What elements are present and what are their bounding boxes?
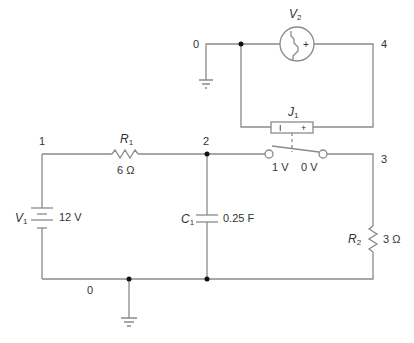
node-label-4: 4 [381, 39, 387, 50]
wire-v2-to-node4 [313, 44, 373, 127]
j1-minus-sign: I [279, 123, 282, 133]
c1-name: C1 [181, 213, 194, 227]
switch-off-label: 0 V [301, 162, 318, 173]
node-label-0-bottom: 0 [87, 285, 93, 296]
r1-resistor [112, 150, 138, 158]
junction-bottom-c1 [205, 277, 210, 282]
v2-name: V2 [289, 8, 301, 22]
r1-name: R1 [120, 133, 133, 147]
node-label-1: 1 [39, 136, 45, 147]
junction-node2 [205, 152, 210, 157]
node-label-3: 3 [381, 154, 387, 165]
r2-name: R2 [348, 233, 361, 247]
circuit-canvas: + I + [0, 0, 414, 343]
switch-terminal-left [265, 150, 273, 158]
switch-terminal-right [319, 150, 327, 158]
wire-top-node0 [206, 44, 280, 80]
v2-source-circle [280, 27, 314, 61]
v1-name: V1 [15, 212, 27, 226]
ground-top-icon [199, 80, 213, 88]
junction-top [239, 42, 244, 47]
node-label-0-top: 0 [193, 39, 199, 50]
wire-switch-to-node3 [327, 154, 373, 226]
switch-on-label: 1 V [272, 162, 289, 173]
j1-name: J1 [288, 106, 298, 120]
r2-value: 3 Ω [383, 234, 400, 245]
junction-bottom-ground [127, 277, 132, 282]
r2-resistor [369, 226, 377, 252]
j1-control-box [271, 122, 313, 133]
r1-value: 6 Ω [117, 165, 134, 176]
node-label-2: 2 [203, 136, 209, 147]
c1-value: 0.25 F [223, 213, 254, 224]
wire-junction-down-to-j1 [241, 44, 271, 127]
j1-plus-sign: + [301, 123, 306, 133]
switch-blade [272, 146, 319, 152]
ground-bottom-icon [121, 318, 137, 326]
v1-value: 12 V [59, 212, 82, 223]
v2-step-waveform-icon [291, 31, 298, 60]
v2-plus-sign: + [303, 39, 309, 50]
